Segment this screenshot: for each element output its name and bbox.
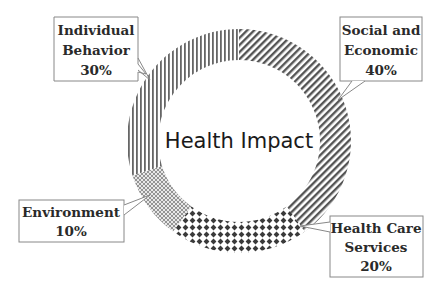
label-healthcare-line2: Services [345,239,408,255]
label-social-line1: Social and [342,22,421,38]
callout-health-care: Health Care Services 20% [300,216,423,277]
callout-social-economic: Social and Economic 40% [338,17,422,100]
label-environment-value: 10% [55,223,87,239]
callout-individual-behavior: Individual Behavior 30% [54,17,150,81]
segment-health-care-services [173,207,305,253]
callout-environment: Environment 10% [19,195,150,242]
segment-individual-behavior [127,29,239,176]
label-individual-line1: Individual [58,22,135,38]
label-healthcare-line1: Health Care [330,220,421,236]
chart-title: Health Impact [165,129,313,153]
health-impact-donut-chart: Health Impact Individual Behavior 30% So… [0,0,441,292]
label-healthcare-value: 20% [360,258,392,274]
label-individual-line2: Behavior [62,42,131,58]
label-social-value: 40% [365,62,397,78]
label-individual-value: 30% [80,62,112,78]
label-social-line2: Economic [344,42,418,58]
label-environment-line1: Environment [22,204,121,220]
